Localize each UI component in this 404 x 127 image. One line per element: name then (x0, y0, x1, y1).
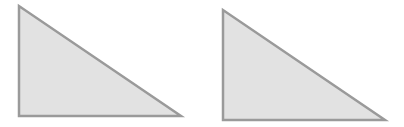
triangle-left (19, 6, 181, 116)
triangle-right (223, 10, 385, 120)
diagram-canvas (0, 0, 404, 127)
